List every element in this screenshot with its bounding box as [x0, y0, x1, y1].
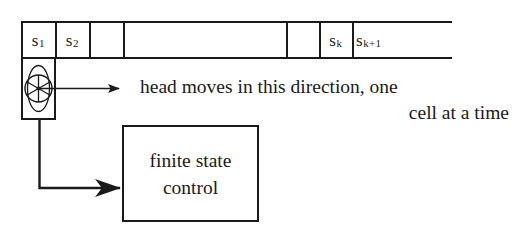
head-wheel-icon [21, 57, 56, 120]
caption-line-1: head moves in this direction, one [140, 74, 509, 100]
control-label-line-2: control [163, 174, 218, 201]
tape-symbol: s [356, 32, 363, 49]
caption-line-2: cell at a time [140, 100, 509, 126]
tape: s1s2sksk+1 [21, 21, 452, 59]
tape-cell-sk[interactable]: sk [319, 21, 352, 59]
direction-caption: head moves in this direction, one cell a… [140, 74, 509, 126]
tape-cell-sk1[interactable]: sk+1 [352, 21, 452, 59]
tape-symbol: s [329, 32, 336, 49]
tape-symbol: s [66, 32, 73, 49]
tape-cell-s1[interactable]: s1 [21, 21, 55, 59]
control-label-line-1: finite state [150, 147, 232, 174]
read-write-head[interactable] [21, 57, 56, 120]
tape-cell-s2[interactable]: s2 [55, 21, 89, 59]
tape-cell-gap[interactable] [123, 21, 286, 59]
tape-symbol: s [32, 32, 39, 49]
turing-machine-figure: s1s2sksk+1 [0, 0, 525, 237]
finite-state-control-box[interactable]: finite state control [122, 125, 259, 222]
tape-cell-3[interactable] [89, 21, 123, 59]
tape-cell-5[interactable] [286, 21, 319, 59]
head-to-control-connector [40, 120, 121, 188]
